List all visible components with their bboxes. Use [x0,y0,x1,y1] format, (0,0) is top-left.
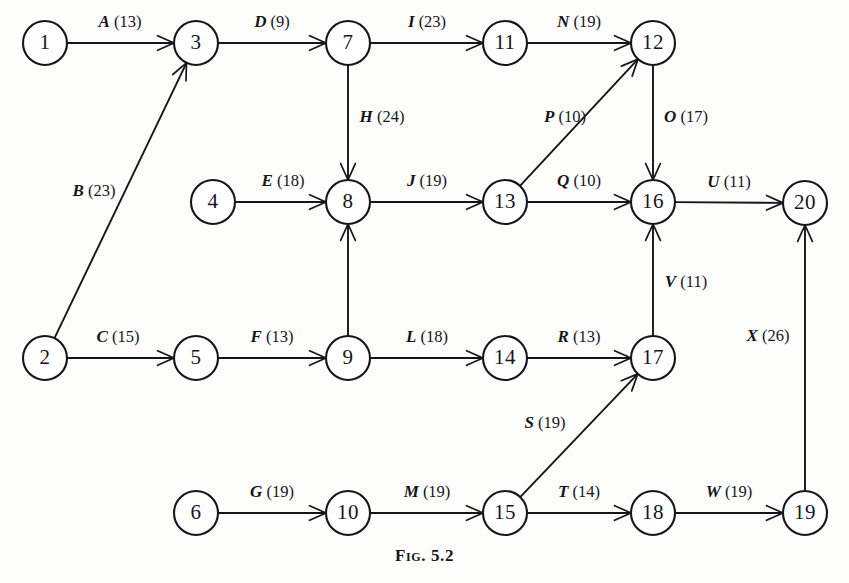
node-1[interactable]: 1 [23,21,67,65]
node-label-12: 12 [642,30,664,54]
node-label-11: 11 [494,30,515,54]
node-label-14: 14 [494,345,516,369]
node-4[interactable]: 4 [191,180,235,224]
edge-S [520,374,638,497]
node-7[interactable]: 7 [326,21,370,65]
node-6[interactable]: 6 [174,491,218,535]
node-12[interactable]: 12 [631,21,675,65]
node-17[interactable]: 17 [631,336,675,380]
node-5[interactable]: 5 [174,336,218,380]
edge-label-P: P (10) [543,107,586,126]
edge-label-X: X (26) [746,326,790,345]
edge-label-S: S (19) [524,413,565,432]
edge-N [527,36,631,51]
edge-9-8 [341,224,356,336]
node-label-15: 15 [494,500,516,524]
edge-A [67,36,174,51]
edge-label-J: J (19) [406,171,447,190]
node-label-17: 17 [642,345,664,369]
edge-V [646,224,661,336]
edge-label-I: I (23) [407,12,446,31]
figure-caption-word: Fig. [395,546,426,565]
edge-X [798,225,813,491]
node-18[interactable]: 18 [631,491,675,535]
edge-J [370,195,483,210]
node-20[interactable]: 20 [783,181,827,225]
node-label-20: 20 [794,190,816,214]
node-19[interactable]: 19 [783,491,827,535]
edge-label-G: G (19) [250,482,294,501]
figure-page: A (13)B (23)C (15)D (9)E (18)F (13)G (19… [0,0,849,583]
edge-label-U: U (11) [707,172,750,191]
node-label-6: 6 [191,500,202,524]
node-label-8: 8 [343,189,354,213]
edge-F [218,351,326,366]
edge-M [370,506,483,521]
edge-label-V: V (11) [665,272,707,291]
edge-label-L: L (18) [405,327,448,346]
edge-label-C: C (15) [97,327,140,346]
edge-L [370,351,483,366]
node-14[interactable]: 14 [483,336,527,380]
network-diagram: A (13)B (23)C (15)D (9)E (18)F (13)G (19… [0,0,849,583]
edge-E [235,195,326,210]
figure-caption-number: 5.2 [431,546,454,565]
node-8[interactable]: 8 [326,180,370,224]
node-15[interactable]: 15 [483,491,527,535]
node-label-19: 19 [794,500,816,524]
node-3[interactable]: 3 [174,21,218,65]
edge-label-A: A (13) [98,12,142,31]
edge-label-T: T (14) [558,482,600,501]
edge-label-F: F (13) [250,327,294,346]
edge-T [527,506,631,521]
edge-D [218,36,326,51]
edge-label-W: W (19) [706,482,753,501]
node-label-1: 1 [40,30,51,54]
node-label-7: 7 [343,30,354,54]
edge-I [370,36,483,51]
edge-label-M: M (19) [403,482,451,501]
edge-label-Q: Q (10) [557,171,601,190]
edge-labels-layer: A (13)B (23)C (15)D (9)E (18)F (13)G (19… [72,12,790,501]
figure-caption: Fig.5.2 [0,546,849,566]
edge-C [67,351,174,366]
edge-label-R: R (13) [557,327,601,346]
edge-label-O: O (17) [664,107,708,126]
edge-label-N: N (19) [556,12,601,31]
node-label-10: 10 [337,500,359,524]
node-9[interactable]: 9 [326,336,370,380]
node-label-2: 2 [40,345,51,369]
edge-Q [527,195,631,210]
node-label-5: 5 [191,345,202,369]
node-11[interactable]: 11 [483,21,527,65]
node-16[interactable]: 16 [631,180,675,224]
edge-O [646,65,661,180]
node-label-3: 3 [191,30,202,54]
node-label-4: 4 [208,189,219,213]
node-10[interactable]: 10 [326,491,370,535]
node-2[interactable]: 2 [23,336,67,380]
node-13[interactable]: 13 [483,180,527,224]
edge-label-B: B (23) [72,181,116,200]
edge-G [218,506,326,521]
edge-H [341,65,356,180]
edge-U [675,195,783,210]
edge-label-D: D (9) [253,12,290,31]
edge-B [55,63,187,338]
edge-W [675,506,783,521]
node-label-9: 9 [343,345,354,369]
edge-label-E: E (18) [261,171,305,190]
node-label-18: 18 [642,500,664,524]
node-label-16: 16 [642,189,664,213]
node-label-13: 13 [494,189,516,213]
edge-label-H: H (24) [359,107,405,126]
edge-R [527,351,631,366]
